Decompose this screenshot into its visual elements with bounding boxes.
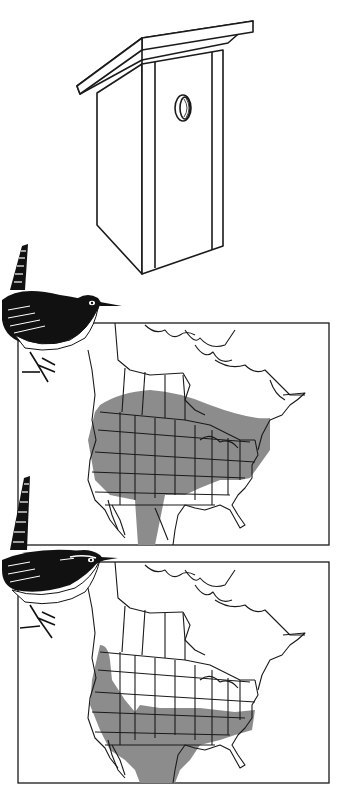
wren-lower-illustration <box>0 0 351 794</box>
wren-lower <box>2 476 118 638</box>
